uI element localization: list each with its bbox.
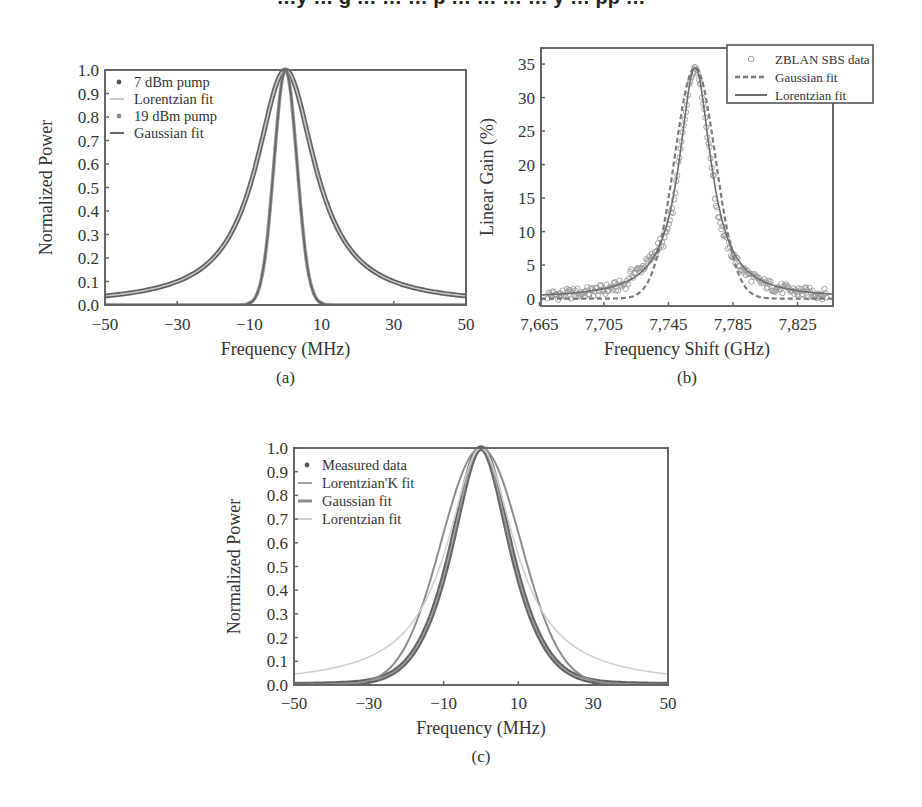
- x-tick-label: 50: [458, 315, 475, 334]
- y-tick-label: 0.3: [267, 605, 288, 624]
- y-tick-label: 0: [527, 290, 536, 309]
- x-tick-label: −50: [281, 694, 308, 713]
- figure-caption: (b): [677, 368, 697, 387]
- y-tick-label: 0.5: [267, 558, 288, 577]
- x-tick-label: 30: [585, 694, 602, 713]
- legend-marker-icon: [117, 114, 122, 119]
- chart-c: −50−30−101030500.00.10.20.30.40.50.60.70…: [224, 439, 677, 766]
- y-tick-label: 0.4: [267, 581, 289, 600]
- legend-marker-icon: [305, 463, 310, 468]
- y-tick-label: 0.7: [78, 132, 100, 151]
- x-tick-label: 7,785: [714, 315, 752, 334]
- legend-marker-icon: [117, 80, 122, 85]
- legend-label: Measured data: [322, 457, 408, 473]
- x-tick-label: 30: [385, 315, 402, 334]
- legend-item: Lorentzian fit: [298, 511, 401, 527]
- y-tick-label: 0.1: [267, 652, 288, 671]
- data-point: [719, 227, 724, 232]
- legend-label: 7 dBm pump: [134, 74, 210, 90]
- legend-b: ZBLAN SBS dataGaussian fitLorentzian fit: [727, 45, 873, 103]
- legend-item: Gaussian fit: [110, 125, 204, 141]
- legend-item: 7 dBm pump: [117, 74, 210, 90]
- x-tick-label: −10: [430, 694, 457, 713]
- y-tick-label: 15: [518, 189, 535, 208]
- y-tick-label: 0.2: [267, 629, 288, 648]
- y-tick-label: 0.0: [267, 676, 288, 695]
- x-tick-label: 7,665: [520, 315, 558, 334]
- y-tick-label: 0.9: [78, 85, 99, 104]
- y-tick-label: 0.5: [78, 179, 99, 198]
- y-tick-label: 35: [518, 55, 535, 74]
- x-axis-label: Frequency (MHz): [221, 339, 350, 360]
- y-tick-label: 0.9: [267, 463, 288, 482]
- y-tick-label: 20: [518, 156, 535, 175]
- y-tick-label: 0.1: [78, 273, 99, 292]
- figure-caption: (c): [472, 747, 491, 766]
- y-tick-label: 0.6: [78, 155, 99, 174]
- data-point: [749, 279, 754, 284]
- x-tick-label: 50: [660, 694, 677, 713]
- legend-a: 7 dBm pumpLorentzian fit19 dBm pumpGauss…: [110, 74, 217, 141]
- legend-item: Measured data: [305, 457, 408, 473]
- y-tick-label: 0.3: [78, 226, 99, 245]
- x-tick-label: 7,745: [649, 315, 687, 334]
- y-tick-label: 0.7: [267, 510, 289, 529]
- legend-label: Lorentzian fit: [322, 511, 401, 527]
- x-tick-label: 10: [313, 315, 330, 334]
- legend-item: Lorentzian'K fit: [298, 475, 414, 491]
- y-tick-label: 10: [518, 223, 535, 242]
- legend-item: Gaussian fit: [298, 493, 392, 509]
- figure: −50−30−101030500.00.10.20.30.40.50.60.70…: [0, 0, 922, 807]
- y-tick-label: 0.2: [78, 249, 99, 268]
- legend-label: Gaussian fit: [322, 493, 392, 509]
- y-tick-label: 1.0: [78, 61, 99, 80]
- chart-a: −50−30−101030500.00.10.20.30.40.50.60.70…: [36, 61, 475, 387]
- y-tick-label: 30: [518, 89, 535, 108]
- legend-item: Lorentzian fit: [110, 91, 213, 107]
- x-tick-label: −30: [356, 694, 383, 713]
- x-tick-label: 7,825: [778, 315, 816, 334]
- x-tick-label: −10: [236, 315, 263, 334]
- x-tick-label: −50: [92, 315, 119, 334]
- y-axis-label: Normalized Power: [224, 499, 244, 634]
- x-tick-label: −30: [164, 315, 191, 334]
- x-axis-label: Frequency (MHz): [416, 718, 545, 739]
- y-tick-label: 0.8: [267, 486, 288, 505]
- y-axis-label: Linear Gain (%): [477, 118, 498, 236]
- legend-label: Lorentzian fit: [134, 91, 213, 107]
- figure-caption: (a): [276, 368, 295, 387]
- y-axis-label: Normalized Power: [36, 120, 56, 255]
- legend-label: 19 dBm pump: [134, 108, 217, 124]
- legend-label: ZBLAN SBS data: [775, 52, 870, 67]
- y-tick-label: 1.0: [267, 439, 288, 458]
- legend-c: Measured dataLorentzian'K fitGaussian fi…: [298, 457, 414, 527]
- y-tick-label: 0.0: [78, 296, 99, 315]
- legend-item: 19 dBm pump: [117, 108, 217, 124]
- chart-b: 7,6657,7057,7457,7857,82505101520253035F…: [477, 45, 873, 387]
- x-axis-label: Frequency Shift (GHz): [604, 339, 770, 360]
- y-tick-label: 0.4: [78, 202, 100, 221]
- legend-label: Lorentzian'K fit: [322, 475, 414, 491]
- legend-label: Gaussian fit: [134, 125, 204, 141]
- y-tick-label: 0.8: [78, 108, 99, 127]
- y-tick-label: 5: [527, 256, 536, 275]
- legend-label: Lorentzian fit: [775, 88, 846, 103]
- y-tick-label: 0.6: [267, 534, 288, 553]
- legend-label: Gaussian fit: [775, 70, 838, 85]
- x-tick-label: 10: [510, 694, 527, 713]
- x-tick-label: 7,705: [585, 315, 623, 334]
- y-tick-label: 25: [518, 122, 535, 141]
